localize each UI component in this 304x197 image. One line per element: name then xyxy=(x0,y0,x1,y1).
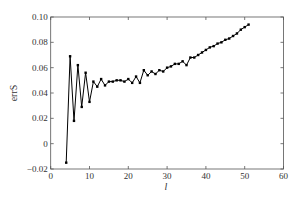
data-point-marker xyxy=(139,82,141,84)
data-point-marker xyxy=(69,55,71,57)
data-point-marker xyxy=(247,23,249,25)
data-point-marker xyxy=(131,82,133,84)
data-point-marker xyxy=(127,78,129,80)
data-point-marker xyxy=(220,41,222,43)
data-series xyxy=(65,23,250,163)
data-point-marker xyxy=(112,80,114,82)
data-point-marker xyxy=(81,106,83,108)
data-point-marker xyxy=(119,79,121,81)
data-point-marker xyxy=(228,37,230,39)
data-point-marker xyxy=(224,39,226,41)
data-point-marker xyxy=(166,66,168,68)
x-axis-label: l xyxy=(165,181,168,192)
data-point-marker xyxy=(185,64,187,66)
data-point-marker xyxy=(154,73,156,75)
data-point-marker xyxy=(244,26,246,28)
data-point-marker xyxy=(170,65,172,67)
data-point-marker xyxy=(162,70,164,72)
data-point-marker xyxy=(174,63,176,65)
y-tick-label: −0.02 xyxy=(27,164,48,174)
data-point-marker xyxy=(158,69,160,71)
data-point-marker xyxy=(236,32,238,34)
line-chart: 0102030405060−0.0200.020.040.060.080.10 … xyxy=(0,0,304,197)
data-point-marker xyxy=(77,64,79,66)
data-point-marker xyxy=(197,54,199,56)
x-tick-label: 50 xyxy=(240,171,250,181)
data-point-marker xyxy=(216,42,218,44)
data-point-marker xyxy=(150,70,152,72)
y-tick-label: 0 xyxy=(43,139,48,149)
data-point-marker xyxy=(147,74,149,76)
data-point-marker xyxy=(135,75,137,77)
data-point-marker xyxy=(123,80,125,82)
data-point-marker xyxy=(115,79,117,81)
x-tick-label: 40 xyxy=(201,171,211,181)
data-point-marker xyxy=(108,80,110,82)
x-tick-label: 10 xyxy=(85,171,95,181)
data-point-marker xyxy=(143,69,145,71)
data-point-marker xyxy=(104,84,106,86)
y-tick-label: 0.04 xyxy=(32,88,48,98)
data-point-marker xyxy=(88,101,90,103)
x-tick-label: 30 xyxy=(163,171,173,181)
y-tick-label: 0.02 xyxy=(32,113,48,123)
data-point-marker xyxy=(100,78,102,80)
data-point-marker xyxy=(205,49,207,51)
data-point-marker xyxy=(73,120,75,122)
data-point-marker xyxy=(209,46,211,48)
data-point-marker xyxy=(181,60,183,62)
y-tick-label: 0.08 xyxy=(32,37,48,47)
data-point-marker xyxy=(178,63,180,65)
data-point-marker xyxy=(92,80,94,82)
series-line xyxy=(66,25,248,163)
data-point-marker xyxy=(201,51,203,53)
plot-frame xyxy=(51,17,284,169)
x-tick-label: 60 xyxy=(279,171,289,181)
data-point-marker xyxy=(84,72,86,74)
data-point-marker xyxy=(240,28,242,30)
data-point-marker xyxy=(189,56,191,58)
x-tick-label: 0 xyxy=(48,171,53,181)
data-point-marker xyxy=(232,35,234,37)
data-point-marker xyxy=(96,85,98,87)
data-point-marker xyxy=(212,45,214,47)
y-tick-label: 0.06 xyxy=(32,63,48,73)
data-point-marker xyxy=(193,56,195,58)
data-point-marker xyxy=(65,161,67,163)
y-tick-label: 0.10 xyxy=(32,12,48,22)
x-tick-label: 20 xyxy=(124,171,134,181)
y-axis-label: errS xyxy=(8,85,19,102)
